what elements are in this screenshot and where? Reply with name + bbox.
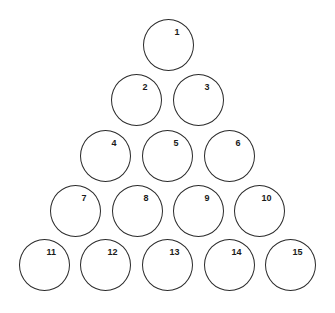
- circle-number: 7: [82, 194, 87, 203]
- circle-8: 8: [112, 185, 163, 237]
- circle-number: 5: [174, 139, 179, 148]
- circle-7: 7: [50, 185, 101, 237]
- circle-5: 5: [142, 130, 193, 182]
- circle-number: 6: [236, 139, 241, 148]
- circle-number: 4: [112, 139, 117, 148]
- circle-1: 1: [143, 19, 194, 71]
- circle-11: 11: [19, 239, 70, 291]
- circle-number: 14: [232, 248, 242, 257]
- circle-12: 12: [80, 239, 131, 291]
- circle-6: 6: [204, 130, 255, 182]
- circle-14: 14: [204, 239, 255, 291]
- circle-number: 1: [175, 28, 180, 37]
- circle-number: 13: [170, 248, 180, 257]
- circle-4: 4: [80, 130, 131, 182]
- circle-number: 12: [108, 248, 118, 257]
- circle-number: 15: [293, 248, 303, 257]
- circle-10: 10: [234, 185, 285, 237]
- circle-triangle-diagram: 1 2 3 4 5 6 7 8 9 10 11 12 13 14 15: [0, 0, 335, 313]
- circle-number: 3: [205, 83, 210, 92]
- circle-3: 3: [173, 74, 224, 126]
- circle-number: 2: [143, 83, 148, 92]
- circle-15: 15: [265, 239, 316, 291]
- circle-number: 8: [144, 194, 149, 203]
- circle-number: 10: [262, 194, 272, 203]
- circle-number: 11: [47, 248, 57, 257]
- circle-2: 2: [111, 74, 162, 126]
- circle-9: 9: [173, 185, 224, 237]
- circle-number: 9: [205, 194, 210, 203]
- circle-13: 13: [142, 239, 193, 291]
